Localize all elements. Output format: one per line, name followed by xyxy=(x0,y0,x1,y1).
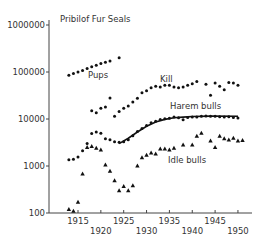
data-point-triangle xyxy=(231,136,235,140)
data-point-triangle xyxy=(199,131,203,135)
data-point-dot xyxy=(232,116,235,119)
series-label-idle-bulls: Idle bulls xyxy=(168,155,207,165)
data-point-dot xyxy=(104,137,107,140)
data-point-triangle xyxy=(236,139,240,143)
data-point-dot xyxy=(113,140,116,143)
series-label-kill: Kill xyxy=(160,74,173,84)
data-point-dot xyxy=(214,82,217,85)
data-point-dot xyxy=(159,85,162,88)
data-point-dot xyxy=(150,121,153,124)
data-point-dot xyxy=(218,85,221,88)
data-point-triangle xyxy=(190,143,194,147)
data-point-dot xyxy=(122,107,125,110)
data-point-triangle xyxy=(172,146,176,150)
data-point-triangle xyxy=(112,178,116,182)
data-point-dot xyxy=(154,85,157,88)
data-point-dot xyxy=(236,84,239,87)
data-point-dot xyxy=(163,84,166,87)
data-point-dot xyxy=(77,156,80,159)
data-point-dot xyxy=(204,114,207,117)
chart-title: Pribilof Fur Seals xyxy=(60,14,131,24)
data-point-dot xyxy=(232,82,235,85)
data-point-dot xyxy=(191,82,194,85)
data-point-triangle xyxy=(90,144,94,148)
data-point-dot xyxy=(186,116,189,119)
data-point-dot xyxy=(223,88,226,91)
data-point-dot xyxy=(204,83,207,86)
data-point-dot xyxy=(72,158,75,161)
data-point-triangle xyxy=(144,153,148,157)
data-point-triangle xyxy=(99,148,103,152)
data-point-triangle xyxy=(71,209,75,213)
data-point-dot xyxy=(108,138,111,141)
data-point-dot xyxy=(95,111,98,114)
x-tick-label: 1915 xyxy=(67,216,89,226)
data-point-dot xyxy=(218,115,221,118)
data-point-dot xyxy=(72,72,75,75)
data-point-dot xyxy=(172,116,175,119)
data-point-triangle xyxy=(126,188,130,192)
data-point-dot xyxy=(127,138,130,141)
data-point-dot xyxy=(90,65,93,68)
data-point-dot xyxy=(127,104,130,107)
data-point-dot xyxy=(214,115,217,118)
data-point-dot xyxy=(77,71,80,74)
data-point-triangle xyxy=(80,171,84,175)
data-point-dot xyxy=(168,117,171,120)
data-point-triangle xyxy=(85,145,89,149)
data-point-triangle xyxy=(213,145,217,149)
data-point-triangle xyxy=(140,155,144,159)
data-point-triangle xyxy=(181,143,185,147)
series-label-pups: Pups xyxy=(88,70,109,80)
data-point-triangle xyxy=(240,138,244,142)
data-point-dot xyxy=(227,81,230,84)
axes: 1000000100000100001000100191519201925193… xyxy=(7,20,252,236)
x-tick-label: 1930 xyxy=(136,226,158,236)
data-point-dot xyxy=(154,120,157,123)
data-point-dot xyxy=(236,117,239,120)
data-point-dot xyxy=(81,149,84,152)
data-point-triangle xyxy=(222,136,226,140)
y-tick-label: 1000000 xyxy=(7,20,45,30)
series-harem-bulls: Harem bulls xyxy=(67,101,239,161)
data-point-dot xyxy=(140,91,143,94)
series-pups: Pups xyxy=(67,56,120,80)
data-point-dot xyxy=(177,116,180,119)
data-point-dot xyxy=(99,132,102,135)
data-point-triangle xyxy=(163,147,167,151)
data-point-dot xyxy=(168,84,171,87)
data-point-triangle xyxy=(167,148,171,152)
data-point-dot xyxy=(182,118,185,121)
data-point-triangle xyxy=(76,200,80,204)
data-point-triangle xyxy=(108,169,112,173)
data-point-triangle xyxy=(227,137,231,141)
series-idle-bulls: Idle bulls xyxy=(67,131,245,213)
pribilof-fur-seals-chart: Pribilof Fur Seals 100000010000010000100… xyxy=(0,0,266,240)
data-point-triangle xyxy=(158,147,162,151)
data-point-dot xyxy=(195,80,198,83)
data-point-dot xyxy=(99,107,102,110)
data-point-dot xyxy=(150,86,153,89)
y-tick-label: 1000 xyxy=(23,161,45,171)
data-point-triangle xyxy=(153,152,157,156)
y-tick-label: 100 xyxy=(29,208,45,218)
x-tick-label: 1935 xyxy=(159,216,181,226)
data-point-dot xyxy=(172,85,175,88)
data-point-dot xyxy=(195,116,198,119)
data-point-triangle xyxy=(122,184,126,188)
data-point-triangle xyxy=(67,207,71,211)
data-point-triangle xyxy=(103,163,107,167)
data-point-dot xyxy=(145,89,148,92)
data-point-dot xyxy=(122,140,125,143)
data-point-triangle xyxy=(208,139,212,143)
data-point-dot xyxy=(136,130,139,133)
data-point-dot xyxy=(95,130,98,133)
data-point-dot xyxy=(99,62,102,65)
series-label-harem-bulls: Harem bulls xyxy=(170,101,222,111)
data-point-dot xyxy=(209,115,212,118)
data-point-dot xyxy=(90,109,93,112)
data-point-triangle xyxy=(131,183,135,187)
series-layer: PupsKillHarem bullsIdle bulls xyxy=(67,56,245,212)
data-point-dot xyxy=(182,85,185,88)
data-point-dot xyxy=(108,96,111,99)
